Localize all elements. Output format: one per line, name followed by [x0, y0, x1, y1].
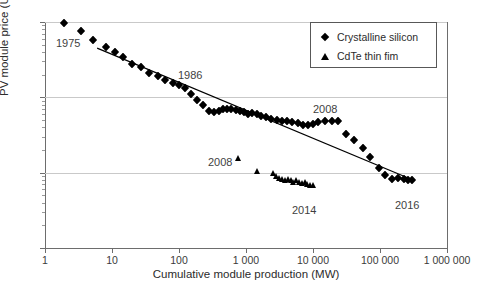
ann-2008-si: 2008 — [313, 103, 337, 115]
legend-label: Crystalline silicon — [337, 31, 418, 43]
y-axis-title-pre: PV module price (USD — [0, 0, 10, 96]
data-point-cdte-thin-film — [254, 168, 260, 174]
triangle-icon — [320, 53, 329, 60]
ann-2016: 2016 — [395, 199, 419, 211]
x-tick-label: 1 000 000 — [402, 254, 482, 266]
x-axis-title: Cumulative module production (MW) — [45, 268, 447, 280]
legend-label: CdTe thin fim — [337, 50, 398, 62]
pv-module-price-experience-curve-chart: PV module price (USD2016/Wp) Cumulative … — [0, 0, 482, 300]
ann-1975: 1975 — [56, 37, 80, 49]
legend: Crystalline silicon CdTe thin fim — [310, 22, 437, 68]
legend-item-crystalline-silicon: Crystalline silicon — [320, 29, 418, 45]
x-tick — [447, 248, 448, 253]
ann-2008-cdte: 2008 — [208, 156, 232, 168]
ann-2014: 2014 — [292, 204, 316, 216]
plot-right-border — [447, 22, 448, 249]
ann-1986: 1986 — [178, 69, 202, 81]
y-axis-title: PV module price (USD2016/Wp) — [0, 0, 13, 96]
legend-item-cdte-thin-film: CdTe thin fim — [320, 48, 398, 64]
data-point-cdte-thin-film — [310, 182, 316, 188]
diamond-icon — [320, 34, 329, 40]
data-point-cdte-thin-film — [235, 155, 241, 161]
